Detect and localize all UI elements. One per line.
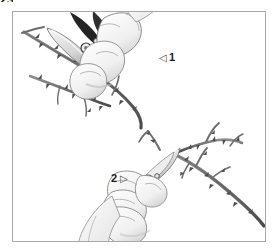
step-marker-2: 2 ▷ [111,173,128,184]
step-marker-1: ◁ 1 [159,52,175,63]
step-2-right-triangle-icon: ▷ [120,174,128,184]
step-1-label: 1 [169,52,175,63]
step-1-left-triangle-icon: ◁ [159,53,167,63]
scene-1-hand-with-secateurs [22,11,168,128]
pruning-illustration [12,11,266,242]
scene-2-hand-with-secateurs [78,123,264,242]
page-number: 23 [0,0,13,2]
figure-frame: ◁ 1 2 ▷ [12,11,266,242]
step-2-label: 2 [111,173,117,184]
